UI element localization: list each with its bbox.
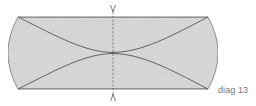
bottom-thread-fork-icon (111, 94, 116, 101)
top-thread-fork-icon (111, 5, 116, 12)
diagram-caption: diag 13 (218, 85, 248, 95)
